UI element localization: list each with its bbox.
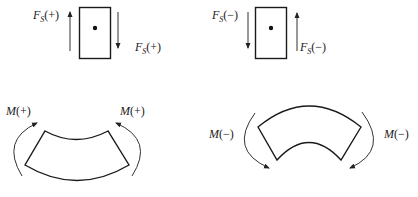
moment-negative-label-right: M(−)	[383, 127, 409, 141]
moment-positive-label-left: M(+)	[5, 104, 31, 118]
moment-positive-element	[25, 131, 129, 181]
shear-negative-centroid-dot	[269, 26, 273, 30]
shear-positive-group: FS(+) FS(+)	[32, 8, 161, 59]
shear-positive-label-left: FS(+)	[32, 8, 59, 24]
moment-negative-element	[258, 106, 361, 160]
shear-negative-group: FS(−) FS(−)	[211, 8, 326, 59]
moment-negative-group: M(−) M(−)	[208, 106, 409, 168]
moment-positive-group: M(+) M(+)	[5, 104, 145, 181]
shear-negative-label-right: FS(−)	[299, 40, 326, 56]
sign-convention-diagram: FS(+) FS(+) FS(−) FS(−) M(+) M(+) M(−) M…	[0, 0, 418, 197]
moment-positive-label-right: M(+)	[119, 104, 145, 118]
moment-negative-label-left: M(−)	[208, 127, 234, 141]
shear-positive-label-right: FS(+)	[134, 40, 161, 56]
shear-positive-element	[80, 8, 111, 59]
shear-negative-element	[256, 8, 287, 59]
shear-positive-centroid-dot	[93, 26, 97, 30]
shear-negative-label-left: FS(−)	[211, 8, 238, 24]
